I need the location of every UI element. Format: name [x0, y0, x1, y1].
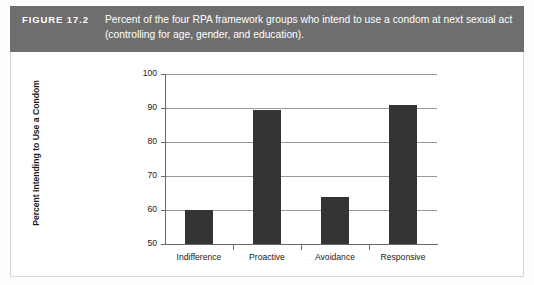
y-tick-label: 100: [131, 68, 157, 78]
x-tick-mark: [301, 245, 302, 250]
bar-avoidance: [321, 197, 349, 244]
figure-container: FIGURE 17.2 Percent of the four RPA fram…: [0, 0, 534, 285]
y-axis-title: Percent Intending to Use a Condom: [31, 73, 41, 233]
gridline-100: [165, 74, 437, 75]
y-tick-label: 50: [131, 238, 157, 248]
bar-indifference: [185, 210, 213, 244]
bar-proactive: [253, 110, 281, 244]
x-tick-mark: [233, 245, 234, 250]
y-tick-label: 90: [131, 102, 157, 112]
bar-chart: Percent Intending to Use a Condom 506070…: [0, 0, 534, 285]
y-tick-label: 70: [131, 170, 157, 180]
y-axis-line: [165, 74, 166, 245]
y-tick-label: 80: [131, 136, 157, 146]
x-tick-mark: [369, 245, 370, 250]
bar-responsive: [389, 105, 417, 244]
y-tick-label: 60: [131, 204, 157, 214]
x-tick-label-responsive: Responsive: [363, 252, 443, 262]
